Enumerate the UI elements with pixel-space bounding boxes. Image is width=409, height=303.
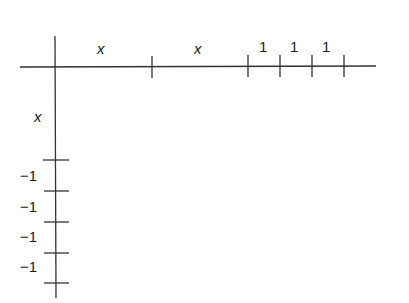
v-label-neg1-3: −1 bbox=[20, 229, 37, 244]
h-label-one-1: 1 bbox=[259, 39, 267, 54]
axes-diagram bbox=[0, 0, 409, 303]
v-label-neg1-2: −1 bbox=[20, 199, 37, 214]
h-label-x2: x bbox=[194, 41, 202, 56]
v-label-neg1-1: −1 bbox=[20, 168, 37, 183]
v-label-x: x bbox=[34, 109, 42, 124]
horizontal-axis bbox=[20, 66, 376, 67]
vertical-axis bbox=[55, 36, 56, 298]
h-label-one-2: 1 bbox=[290, 39, 298, 54]
h-label-one-3: 1 bbox=[322, 39, 330, 54]
v-label-neg1-4: −1 bbox=[20, 259, 37, 274]
h-label-x1: x bbox=[97, 41, 105, 56]
